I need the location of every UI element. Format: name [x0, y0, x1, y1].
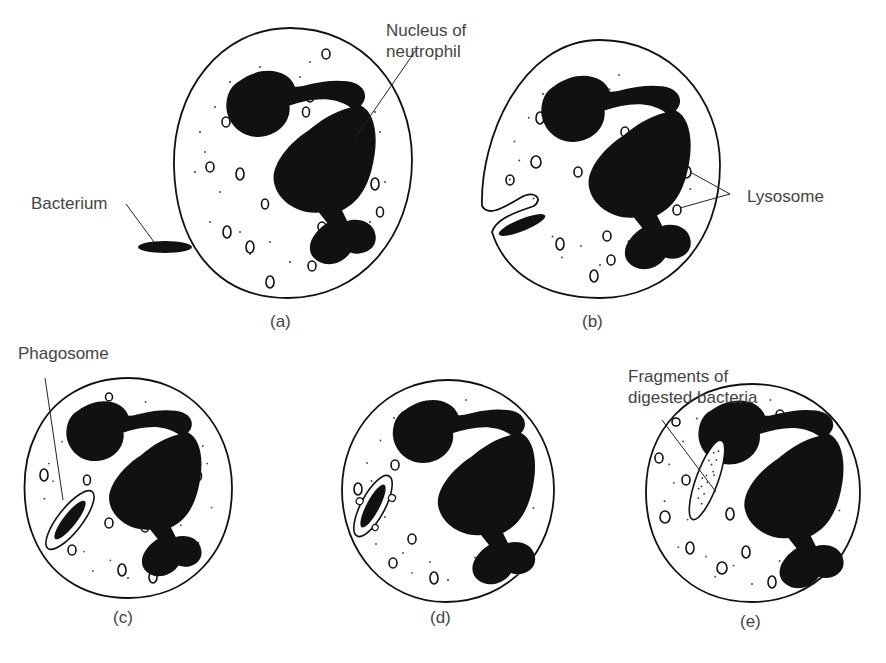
nucleus-label-line2: neutrophil [386, 41, 466, 62]
panel-e-neutrophil [646, 384, 860, 602]
bacterium-icon [138, 241, 192, 253]
lysosome-label: Lysosome [747, 186, 824, 207]
caption-c: (c) [113, 608, 133, 628]
bacterium-label: Bacterium [31, 193, 108, 214]
caption-b: (b) [582, 312, 603, 332]
nucleus-label: Nucleus of neutrophil [386, 20, 466, 62]
caption-d: (d) [430, 608, 451, 628]
fragments-label-line2: digested bacteria [628, 387, 757, 408]
panel-a-neutrophil [174, 28, 412, 298]
panel-b-neutrophil [482, 40, 720, 298]
bacterium-leader-line [126, 204, 154, 242]
nucleus-label-line1: Nucleus of [386, 20, 466, 41]
fragments-label: Fragments of digested bacteria [628, 366, 757, 408]
fragments-label-line1: Fragments of [628, 366, 757, 387]
diagram-canvas [0, 0, 886, 663]
caption-e: (e) [740, 612, 761, 632]
panel-c-neutrophil [25, 378, 233, 598]
panel-d-neutrophil [342, 380, 554, 602]
phagosome-label: Phagosome [18, 343, 109, 364]
caption-a: (a) [270, 312, 291, 332]
